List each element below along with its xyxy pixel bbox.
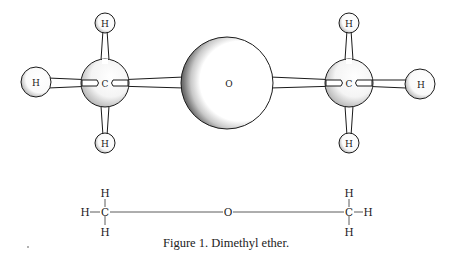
figure-caption: Figure 1. Dimethyl ether. <box>0 236 452 251</box>
sf-h-right: H <box>363 206 372 218</box>
label-h-right-bot: H <box>345 139 353 149</box>
sf-c-left: C <box>101 206 109 218</box>
structural-formula: H H C H O H C H H <box>80 187 372 238</box>
dimethyl-ether-figure: H C H H O C H H H H H <box>0 0 452 254</box>
label-c-left: C <box>102 79 109 89</box>
label-h-left-top: H <box>101 19 109 29</box>
bond-c-h-left-top <box>101 30 109 60</box>
label-h-left: H <box>32 78 40 88</box>
sf-h-right-top: H <box>344 187 353 199</box>
label-c-right: C <box>346 79 353 89</box>
label-h-right: H <box>417 80 425 90</box>
sf-c-right: C <box>345 206 353 218</box>
label-h-left-bot: H <box>101 139 109 149</box>
sf-h-left: H <box>80 206 89 218</box>
sf-h-left-top: H <box>100 187 109 199</box>
sf-o: O <box>224 206 233 218</box>
bond-c-h-left-bot <box>101 106 109 136</box>
bond-c-h-right-bot <box>345 106 353 136</box>
label-h-right-top: H <box>345 19 353 29</box>
bond-c-h-right-top <box>345 30 353 60</box>
label-o: O <box>225 79 232 89</box>
molecule-diagram: H C H H O C H H H H H <box>0 0 452 254</box>
